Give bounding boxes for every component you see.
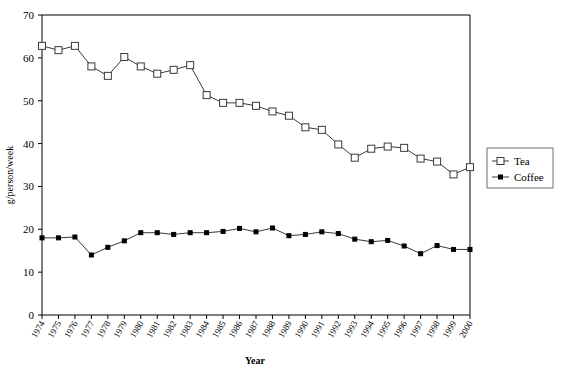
x-axis-tick-label: 1992 xyxy=(325,319,343,340)
data-point-tea xyxy=(187,62,194,69)
x-axis-tick-label: 1979 xyxy=(111,319,129,340)
data-point-tea xyxy=(220,99,227,106)
data-point-coffee xyxy=(270,226,274,230)
series-line-tea xyxy=(42,46,470,175)
data-point-coffee xyxy=(122,239,126,243)
x-axis-tick-label: 1995 xyxy=(375,319,393,340)
x-axis-tick-label: 1982 xyxy=(161,319,179,340)
data-point-tea xyxy=(39,42,46,49)
data-point-coffee xyxy=(468,247,472,251)
x-axis-tick-label: 1994 xyxy=(358,319,376,340)
data-point-tea xyxy=(253,102,260,109)
data-point-tea xyxy=(318,126,325,133)
y-axis-tick-label: 70 xyxy=(23,9,35,21)
legend-marker-coffee xyxy=(499,175,503,179)
data-point-tea xyxy=(71,42,78,49)
data-point-tea xyxy=(104,72,111,79)
chart-legend: TeaCoffee xyxy=(487,148,553,188)
x-axis-tick-label: 1996 xyxy=(391,319,409,340)
data-point-tea xyxy=(285,112,292,119)
x-axis-tick-label: 1981 xyxy=(144,319,162,340)
y-axis-tick-label: 40 xyxy=(23,138,35,150)
x-axis-tick-label: 1986 xyxy=(227,319,245,340)
y-axis-tick-label: 10 xyxy=(23,266,35,278)
legend-marker-tea xyxy=(497,158,504,165)
legend-label-tea: Tea xyxy=(514,155,530,167)
x-axis-tick-label: 1980 xyxy=(128,319,146,340)
x-axis-tick-label: 1974 xyxy=(29,319,47,340)
data-point-coffee xyxy=(205,231,209,235)
data-point-tea xyxy=(55,47,62,54)
data-point-tea xyxy=(368,145,375,152)
data-point-tea xyxy=(302,124,309,131)
data-series-group xyxy=(39,42,474,257)
data-point-tea xyxy=(121,54,128,61)
data-point-coffee xyxy=(369,240,373,244)
data-point-tea xyxy=(351,154,358,161)
x-axis-tick-label: 1998 xyxy=(424,319,442,340)
data-point-coffee xyxy=(172,232,176,236)
data-point-tea xyxy=(401,144,408,151)
x-axis-tick-label: 1990 xyxy=(292,319,310,340)
x-axis-tick-label: 1991 xyxy=(309,319,327,340)
data-point-tea xyxy=(335,141,342,148)
line-chart: 010203040506070 197419751976197719781979… xyxy=(0,0,563,375)
data-point-tea xyxy=(137,63,144,70)
data-point-coffee xyxy=(386,238,390,242)
data-point-tea xyxy=(236,99,243,106)
data-point-coffee xyxy=(106,245,110,249)
data-point-tea xyxy=(467,164,474,171)
data-point-coffee xyxy=(254,230,258,234)
data-point-tea xyxy=(88,63,95,70)
data-point-coffee xyxy=(353,237,357,241)
x-axis-tick-label: 1993 xyxy=(342,319,360,340)
x-axis-ticks: 1974197519761977197819791980198119821983… xyxy=(29,315,475,340)
data-point-coffee xyxy=(139,231,143,235)
data-point-coffee xyxy=(303,232,307,236)
legend-label-coffee: Coffee xyxy=(514,171,544,183)
x-axis-tick-label: 1977 xyxy=(78,319,96,340)
x-axis-tick-label: 1989 xyxy=(276,319,294,340)
data-point-tea xyxy=(384,143,391,150)
data-point-tea xyxy=(154,70,161,77)
y-axis-tick-label: 30 xyxy=(23,180,35,192)
data-point-coffee xyxy=(73,235,77,239)
x-axis-tick-label: 1987 xyxy=(243,319,261,340)
x-axis-tick-label: 1976 xyxy=(62,319,80,340)
data-point-tea xyxy=(203,92,210,99)
data-point-coffee xyxy=(40,236,44,240)
y-axis-tick-label: 60 xyxy=(23,52,35,64)
y-axis-ticks: 010203040506070 xyxy=(23,9,42,321)
data-point-coffee xyxy=(56,236,60,240)
x-axis-tick-label: 1978 xyxy=(95,319,113,340)
data-point-coffee xyxy=(287,234,291,238)
x-axis-tick-label: 1999 xyxy=(441,319,459,340)
data-point-coffee xyxy=(402,244,406,248)
x-axis-tick-label: 1984 xyxy=(194,319,212,340)
data-point-coffee xyxy=(452,247,456,251)
data-point-coffee xyxy=(155,231,159,235)
data-point-tea xyxy=(170,66,177,73)
y-axis-tick-label: 20 xyxy=(23,223,35,235)
data-point-coffee xyxy=(238,226,242,230)
x-axis-tick-label: 1997 xyxy=(408,319,426,340)
data-point-coffee xyxy=(435,244,439,248)
x-axis-tick-label: 1983 xyxy=(177,319,195,340)
data-point-coffee xyxy=(320,230,324,234)
y-axis-title-text: g/person/week xyxy=(4,146,15,204)
x-axis-title: Year xyxy=(245,355,266,366)
data-point-coffee xyxy=(188,231,192,235)
plot-frame-border xyxy=(42,15,470,315)
data-point-coffee xyxy=(89,253,93,257)
data-point-coffee xyxy=(221,229,225,233)
data-point-coffee xyxy=(419,252,423,256)
x-axis-tick-label: 1988 xyxy=(260,319,278,340)
x-axis-tick-label: 1975 xyxy=(46,319,64,340)
y-axis-tick-label: 0 xyxy=(29,309,35,321)
x-axis-title-text: Year xyxy=(245,355,266,366)
x-axis-tick-label: 1985 xyxy=(210,319,228,340)
data-point-tea xyxy=(450,171,457,178)
x-axis-tick-label: 2000 xyxy=(457,319,475,340)
y-axis-tick-label: 50 xyxy=(23,95,35,107)
chart-canvas: 010203040506070 197419751976197719781979… xyxy=(0,0,563,375)
